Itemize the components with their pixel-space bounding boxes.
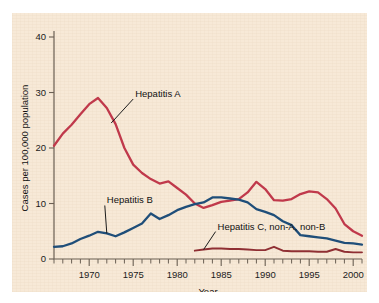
x-tick-label: 1970 bbox=[79, 269, 100, 280]
y-tick-label: 20 bbox=[35, 142, 46, 153]
chart-panel: 010203040 1970197519801985199019952000 H… bbox=[12, 13, 367, 292]
x-axis-ticks: 1970197519801985199019952000 bbox=[54, 259, 364, 280]
annotation-hepatitis-a: Hepatitis A bbox=[135, 88, 181, 99]
y-tick-label: 40 bbox=[35, 31, 46, 42]
x-tick-label: 1975 bbox=[123, 269, 144, 280]
chart-figure: 010203040 1970197519801985199019952000 H… bbox=[0, 0, 379, 303]
y-tick-label: 0 bbox=[41, 253, 46, 264]
annotation-hepatitis-c-non-a-non-b: Hepatitis C, non-A, non-B bbox=[218, 221, 326, 232]
y-axis-title: Cases per 100,000 population bbox=[19, 85, 30, 212]
series-line-hepatitis-c-non-a-non-b bbox=[195, 247, 362, 253]
x-tick-label: 1990 bbox=[255, 269, 276, 280]
x-axis-title: Year bbox=[198, 286, 217, 292]
x-tick-label: 1980 bbox=[167, 269, 188, 280]
x-tick-label: 2000 bbox=[343, 269, 364, 280]
line-chart-svg: 010203040 1970197519801985199019952000 H… bbox=[12, 13, 367, 292]
y-tick-label: 10 bbox=[35, 198, 46, 209]
y-axis-ticks: 010203040 bbox=[35, 31, 54, 264]
x-tick-label: 1985 bbox=[211, 269, 232, 280]
annotation-hepatitis-b: Hepatitis B bbox=[107, 194, 153, 205]
series-line-hepatitis-a bbox=[54, 98, 362, 236]
y-tick-label: 30 bbox=[35, 87, 46, 98]
x-tick-label: 1995 bbox=[299, 269, 320, 280]
